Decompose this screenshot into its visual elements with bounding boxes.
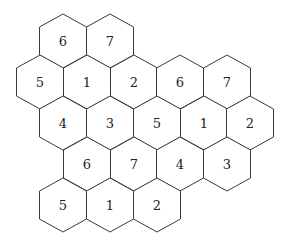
hex-label: 1 bbox=[200, 116, 208, 131]
hex-label: 6 bbox=[176, 75, 184, 90]
hex-label: 3 bbox=[106, 116, 114, 131]
hex-label: 5 bbox=[59, 198, 67, 213]
hex-label: 1 bbox=[83, 75, 91, 90]
hex-label: 5 bbox=[153, 116, 161, 131]
hex-label: 7 bbox=[223, 75, 231, 90]
hex-label: 4 bbox=[59, 116, 67, 131]
hex-label: 6 bbox=[83, 157, 91, 172]
hex-label: 7 bbox=[130, 157, 138, 172]
hex-label: 2 bbox=[153, 198, 161, 213]
hex-grid-svg: 6751267435126743512 bbox=[0, 0, 288, 249]
hex-label: 7 bbox=[106, 34, 114, 49]
hex-label: 2 bbox=[130, 75, 138, 90]
hex-label: 6 bbox=[59, 34, 67, 49]
hex-label: 5 bbox=[36, 75, 44, 90]
hex-label: 2 bbox=[246, 116, 254, 131]
hex-grid-diagram: 6751267435126743512 bbox=[0, 0, 288, 249]
hex-label: 3 bbox=[223, 157, 231, 172]
hex-label: 4 bbox=[176, 157, 184, 172]
hex-label: 1 bbox=[106, 198, 114, 213]
